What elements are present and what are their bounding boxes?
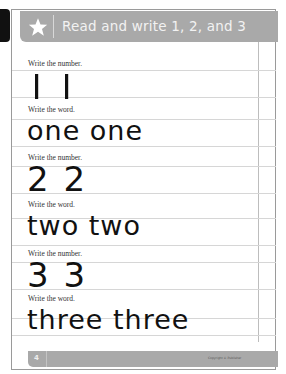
header-divider: [53, 15, 54, 38]
word-sample-one: one one: [27, 117, 143, 144]
page-tab-marker: [0, 9, 10, 42]
number-sample-1: [27, 72, 87, 106]
star-icon: [28, 17, 48, 37]
ruled-line: [12, 70, 276, 71]
instruction-label: Write the number.: [28, 59, 82, 68]
digit-one-glyphs: [27, 73, 87, 101]
number-sample-2: 2 2: [27, 162, 87, 196]
footer-divider: [46, 351, 47, 367]
page-title: Read and write 1, 2, and 3: [62, 18, 246, 34]
page-number: 4: [34, 354, 39, 362]
copyright-text: Copyright © Publisher: [208, 356, 241, 360]
ruled-line: [12, 146, 276, 147]
number-sample-3: 3 3: [27, 258, 87, 292]
ruled-line: [12, 335, 276, 336]
word-sample-three: three three: [27, 306, 189, 333]
instruction-label: Write the word.: [28, 105, 75, 114]
worksheet-header: Read and write 1, 2, and 3: [20, 11, 278, 42]
worksheet-footer: 4 Copyright © Publisher: [28, 351, 278, 367]
instruction-label: Write the word.: [28, 294, 75, 303]
ruled-line: [12, 245, 276, 246]
word-sample-two: two two: [27, 212, 141, 239]
margin-line: [258, 42, 259, 342]
instruction-label: Write the word.: [28, 200, 75, 209]
